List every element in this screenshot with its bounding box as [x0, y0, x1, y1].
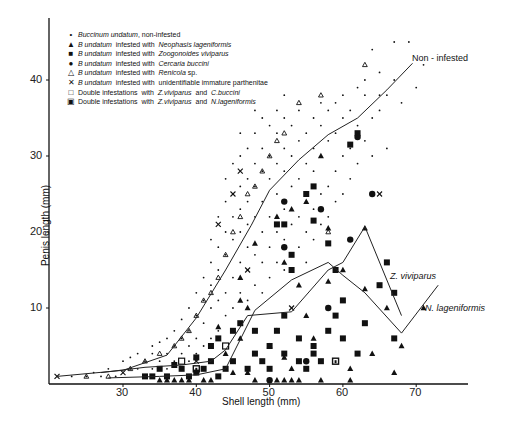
point-zoogonoides [281, 351, 287, 357]
point-non-infested [298, 246, 300, 248]
point-zoogonoides [281, 221, 287, 227]
x-tick-label: 50 [263, 386, 275, 398]
point-non-infested [364, 94, 366, 96]
point-zoogonoides [259, 358, 265, 364]
point-zoogonoides [311, 351, 317, 357]
point-non-infested [181, 353, 183, 355]
legend-item: △B undatum infested with Renicola sp. [66, 68, 268, 78]
y-tick-label: 20 [30, 225, 42, 237]
point-non-infested [349, 148, 351, 150]
y-tick-label: 10 [30, 301, 42, 313]
point-non-infested [225, 178, 227, 180]
point-non-infested [203, 277, 205, 279]
point-unidentified [238, 169, 243, 174]
point-neophasis [289, 366, 295, 372]
point-non-infested [195, 353, 197, 355]
point-zoogonoides [311, 183, 317, 189]
point-neophasis [252, 240, 258, 246]
point-non-infested [232, 216, 234, 218]
point-non-infested [283, 117, 285, 119]
point-non-infested [122, 360, 124, 362]
point-non-infested [217, 330, 219, 332]
point-non-infested [320, 224, 322, 226]
point-renicola [282, 131, 287, 135]
point-neophasis [274, 214, 280, 220]
point-zoogonoides [215, 373, 221, 379]
point-non-infested [269, 216, 271, 218]
point-non-infested [371, 117, 373, 119]
point-non-infested [291, 224, 293, 226]
point-non-infested [239, 186, 241, 188]
point-non-infested [210, 338, 212, 340]
point-non-infested [247, 148, 249, 150]
point-non-infested [166, 338, 168, 340]
point-zoogonoides [296, 358, 302, 364]
point-zoogonoides [289, 252, 295, 258]
point-non-infested [276, 231, 278, 233]
point-zoogonoides [245, 366, 251, 372]
point-neophasis [289, 377, 295, 383]
point-non-infested [342, 117, 344, 119]
trend-lines [57, 63, 438, 378]
point-cercaria [281, 244, 287, 250]
point-non-infested [254, 163, 256, 165]
point-non-infested [269, 277, 271, 279]
point-neophasis [245, 305, 251, 311]
open-triangle-icon: △ [66, 68, 76, 78]
point-non-infested [357, 87, 359, 89]
point-neophasis [318, 377, 324, 383]
legend-label: Buccinum undatum, non-infested [78, 30, 180, 40]
point-neophasis [347, 377, 353, 383]
point-non-infested [100, 376, 102, 378]
point-renicola [245, 192, 250, 196]
point-cercaria [266, 377, 272, 383]
point-neophasis [237, 297, 243, 303]
filled-square-icon: ■ [66, 49, 76, 59]
point-non-infested [269, 246, 271, 248]
x-tick-label: 30 [116, 386, 128, 398]
x-tick-label: 40 [189, 386, 201, 398]
point-zoogonoides [208, 343, 214, 349]
point-neophasis [311, 335, 317, 341]
point-non-infested [203, 322, 205, 324]
point-non-infested [210, 307, 212, 309]
point-cercaria [347, 236, 353, 242]
cross-icon: ✕ [66, 78, 76, 88]
point-non-infested [327, 186, 329, 188]
point-zoogonoides [296, 335, 302, 341]
legend-item: ▣Double infestations with Z.viviparus an… [66, 97, 268, 107]
line-n-lageniformis [108, 262, 438, 378]
point-renicola [231, 230, 236, 234]
point-non-infested [335, 102, 337, 104]
point-zoogonoides [289, 267, 295, 273]
point-non-infested [254, 132, 256, 134]
point-non-infested [401, 102, 403, 104]
point-neophasis [237, 274, 243, 280]
point-neophasis [215, 324, 221, 330]
point-non-infested [225, 292, 227, 294]
point-non-infested [261, 231, 263, 233]
point-non-infested [386, 94, 388, 96]
point-cercaria [325, 305, 331, 311]
point-non-infested [210, 239, 212, 241]
point-non-infested [335, 170, 337, 172]
point-non-infested [261, 292, 263, 294]
point-neophasis [296, 377, 302, 383]
label-z-viviparus: Z. viviparus [390, 271, 436, 281]
point-non-infested [181, 319, 183, 321]
point-zoogonoides [384, 259, 390, 265]
point-non-infested [188, 307, 190, 309]
point-non-infested [173, 330, 175, 332]
point-zoogonoides [362, 320, 368, 326]
legend-item: ●B undatum infested with Cercaria buccin… [66, 59, 268, 69]
point-double-zv-cb [179, 358, 185, 364]
point-zoogonoides [201, 366, 207, 372]
point-non-infested [313, 170, 315, 172]
point-non-infested [283, 239, 285, 241]
point-non-infested [349, 110, 351, 112]
point-neophasis [325, 225, 331, 231]
point-cercaria [318, 206, 324, 212]
point-neophasis [347, 366, 353, 372]
point-non-infested [298, 178, 300, 180]
point-non-infested [254, 254, 256, 256]
